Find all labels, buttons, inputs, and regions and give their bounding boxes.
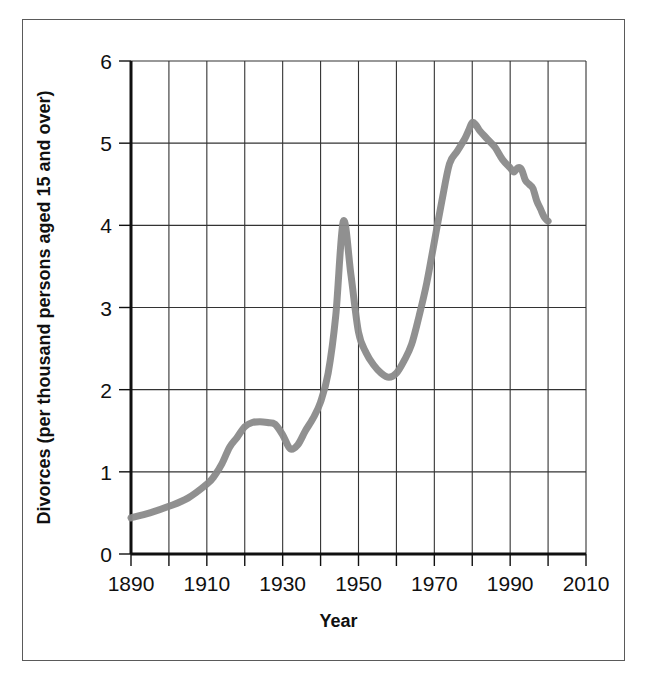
y-axis-tick-label: 4: [100, 214, 112, 237]
y-axis-tick-label: 6: [100, 50, 112, 73]
y-axis-tick-label: 0: [100, 543, 112, 566]
x-axis-title: Year: [319, 611, 357, 631]
y-axis-tick-label: 3: [100, 297, 112, 320]
y-axis-tick-label: 2: [100, 379, 112, 402]
chart-svg: 18901910193019501970199020100123456YearD…: [23, 20, 624, 660]
data-series-line: [131, 122, 548, 517]
figure-frame: 18901910193019501970199020100123456YearD…: [22, 19, 625, 661]
y-axis-tick-label: 1: [100, 461, 112, 484]
figure-root: 18901910193019501970199020100123456YearD…: [0, 0, 647, 683]
y-axis-tick-label: 5: [100, 132, 112, 155]
x-axis-tick-label: 1950: [335, 572, 382, 595]
x-axis-tick-label: 1890: [108, 572, 155, 595]
x-axis-tick-label: 1970: [411, 572, 458, 595]
x-axis-tick-label: 1930: [259, 572, 306, 595]
y-axis-title: Divorces (per thousand persons aged 15 a…: [34, 90, 54, 524]
x-axis-tick-label: 1990: [487, 572, 534, 595]
x-axis-tick-label: 1910: [183, 572, 230, 595]
x-axis-tick-label: 2010: [563, 572, 610, 595]
